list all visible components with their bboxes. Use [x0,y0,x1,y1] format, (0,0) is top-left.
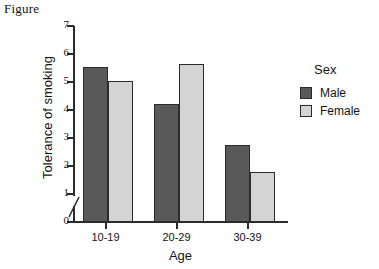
y-tick-label: 3 [55,130,69,142]
bar-30-39-female [250,172,275,222]
y-tick-label: 7 [55,18,69,30]
legend-label: Male [320,86,346,100]
legend-swatch-icon [300,87,312,99]
legend-swatch-icon [300,105,312,117]
x-tick-label: 20-29 [149,231,205,243]
bar-30-39-male [225,145,250,222]
x-axis-title: Age [73,248,288,263]
x-tick-mark [105,222,107,229]
bar-10-19-female [108,81,133,222]
x-tick-label: 10-19 [78,231,134,243]
figure-panel: Figure Tolerance of smoking Age 01234567… [0,0,379,269]
y-tick-label: 1 [55,186,69,198]
y-tick-label: 2 [55,158,69,170]
bar-20-29-male [154,104,179,222]
y-tick-label: 5 [55,74,69,86]
y-tick-label: 0 [55,214,69,226]
x-tick-mark [176,222,178,229]
legend-item-female: Female [300,104,376,118]
legend-entries: MaleFemale [300,86,376,118]
x-tick-label: 30-39 [220,231,276,243]
bar-20-29-female [179,64,204,222]
y-tick-label: 4 [55,102,69,114]
legend-label: Female [320,104,360,118]
x-tick-mark [247,222,249,229]
y-tick-label: 6 [55,46,69,58]
bar-10-19-male [83,67,108,222]
legend: Sex MaleFemale [300,62,376,122]
bar-chart: Tolerance of smoking Age 01234567 10-192… [0,0,379,269]
y-axis-title: Tolerance of smoking [40,23,55,213]
legend-title: Sex [300,62,376,77]
legend-item-male: Male [300,86,376,100]
y-axis-line [73,26,75,196]
